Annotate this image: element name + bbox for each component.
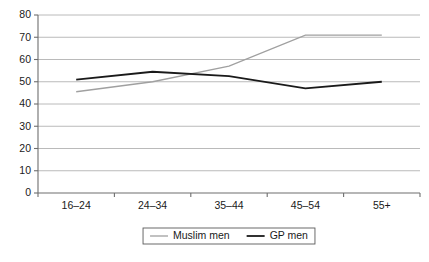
y-tick-label: 40 [19, 97, 31, 109]
chart-legend: Muslim menGP men [143, 228, 315, 244]
chart-svg: 01020304050607080 16–2424–3435–4445–5455… [0, 0, 429, 262]
y-tick-label: 0 [25, 186, 31, 198]
x-tick-label: 16–24 [62, 199, 91, 211]
x-tick-label: 45–54 [291, 199, 320, 211]
legend-label: Muslim men [173, 229, 230, 241]
x-tick-label: 55+ [373, 199, 391, 211]
x-tick-label: 24–34 [138, 199, 167, 211]
line-chart: 01020304050607080 16–2424–3435–4445–5455… [0, 0, 429, 262]
y-tick-label: 60 [19, 53, 31, 65]
y-tick-label: 50 [19, 75, 31, 87]
y-tick-label: 30 [19, 120, 31, 132]
y-tick-label: 80 [19, 8, 31, 20]
y-axis-tick-labels: 01020304050607080 [19, 8, 31, 198]
y-tick-label: 70 [19, 31, 31, 43]
x-tick-label: 35–44 [214, 199, 243, 211]
legend-label: GP men [270, 229, 308, 241]
chart-background [0, 0, 429, 262]
y-tick-label: 10 [19, 164, 31, 176]
y-tick-label: 20 [19, 142, 31, 154]
